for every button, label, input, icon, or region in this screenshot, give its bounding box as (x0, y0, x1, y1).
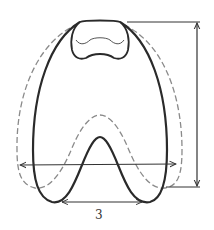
crown-cap (71, 21, 128, 59)
overall-width-arrow (20, 164, 176, 165)
tooth-diagram: 3 (0, 0, 214, 230)
inner-gap-label: 3 (95, 208, 103, 222)
